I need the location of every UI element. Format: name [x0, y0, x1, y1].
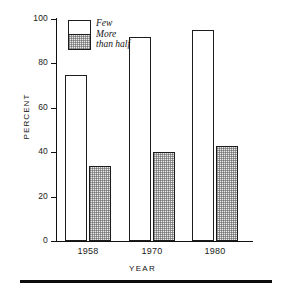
y-axis-tick	[51, 241, 57, 242]
bar-1980-few	[192, 30, 214, 241]
x-axis-tick-label: 1980	[192, 246, 238, 256]
y-axis-tick-label: 20	[18, 192, 48, 201]
bar-1980-more-than-half	[216, 146, 238, 241]
bottom-rule	[20, 280, 272, 283]
legend-key-box	[68, 20, 91, 50]
bar-1958-more-than-half	[89, 166, 111, 241]
y-axis-tick-label: 80	[18, 58, 48, 67]
legend-label-few: Few	[96, 19, 112, 29]
legend-label-more-line2: than half	[96, 40, 130, 50]
legend-swatch-few-icon	[69, 21, 90, 35]
x-axis-tick-label: 1958	[65, 246, 111, 256]
x-axis-tick-label: 1970	[129, 246, 175, 256]
bar-1958-few	[65, 75, 87, 242]
x-axis-line	[56, 241, 253, 242]
bar-1970-few	[129, 37, 151, 241]
bar-chart-figure: 100806040200 PERCENT YEAR 195819701980 F…	[0, 0, 285, 289]
bar-1970-more-than-half	[153, 152, 175, 241]
y-axis-tick-label: 100	[18, 14, 48, 23]
legend: Few More than half	[68, 19, 150, 55]
x-axis-title: YEAR	[0, 264, 285, 273]
legend-label-more: More than half	[96, 30, 130, 50]
y-axis-title: PERCENT	[22, 77, 31, 157]
y-axis-tick-label: 0	[18, 236, 48, 245]
legend-swatch-more-icon	[69, 35, 90, 49]
